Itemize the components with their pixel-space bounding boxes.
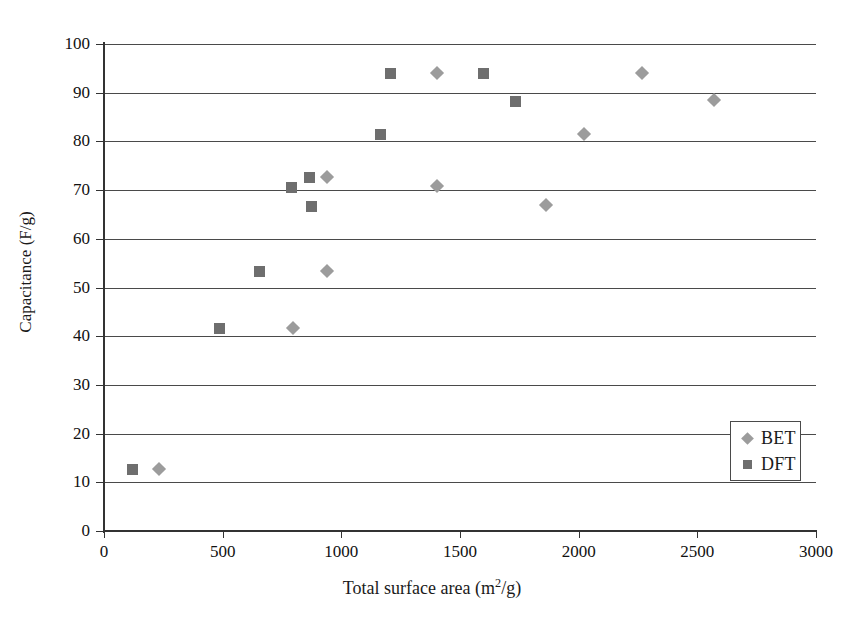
data-point-dft (286, 182, 297, 193)
x-tick-mark (341, 531, 342, 538)
x-tick-label: 0 (69, 543, 139, 560)
data-point-bet (539, 198, 553, 212)
data-point-bet (286, 321, 300, 335)
scatter-chart: 0102030405060708090100 05001000150020002… (0, 0, 864, 624)
x-tick-mark (579, 531, 580, 538)
x-tick-label: 1500 (425, 543, 495, 560)
x-axis-title-post: /g) (501, 578, 521, 598)
x-tick-mark (697, 531, 698, 538)
legend-square-icon (738, 460, 756, 469)
y-tick-label: 20 (48, 425, 90, 442)
legend-item-dft: DFT (738, 451, 800, 477)
data-point-bet (152, 462, 166, 476)
y-tick-label: 60 (48, 230, 90, 247)
data-point-dft (127, 464, 138, 475)
data-point-bet (430, 179, 444, 193)
y-tick-label: 100 (48, 35, 90, 52)
legend-label-bet: BET (761, 428, 796, 449)
data-point-bet (635, 66, 649, 80)
x-tick-label: 500 (188, 543, 258, 560)
x-tick-label: 2500 (662, 543, 732, 560)
y-tick-label: 10 (48, 473, 90, 490)
data-point-dft (385, 68, 396, 79)
data-point-bet (577, 127, 591, 141)
y-tick-label: 70 (48, 181, 90, 198)
x-tick-label: 3000 (781, 543, 851, 560)
x-tick-mark (460, 531, 461, 538)
legend-diamond-icon (738, 434, 756, 443)
legend-item-bet: BET (738, 425, 800, 451)
data-point-bet (707, 93, 721, 107)
data-point-dft (214, 323, 225, 334)
y-tick-label: 0 (48, 522, 90, 539)
y-tick-label: 50 (48, 279, 90, 296)
data-point-dft (375, 129, 386, 140)
y-axis-title: Capacitance (F/g) (16, 162, 36, 382)
data-point-bet (320, 264, 334, 278)
data-point-dft (304, 172, 315, 183)
data-point-dft (254, 266, 265, 277)
data-point-bet (430, 66, 444, 80)
y-tick-label: 40 (48, 327, 90, 344)
chart-legend: BET DFT (730, 421, 801, 481)
x-axis-title-pre: Total surface area (m (343, 578, 495, 598)
y-tick-label: 90 (48, 84, 90, 101)
data-point-dft (478, 68, 489, 79)
x-tick-label: 1000 (306, 543, 376, 560)
x-tick-mark (223, 531, 224, 538)
y-tick-label: 80 (48, 132, 90, 149)
data-point-bet (320, 170, 334, 184)
x-tick-label: 2000 (544, 543, 614, 560)
x-tick-mark (816, 531, 817, 538)
x-axis-title: Total surface area (m2/g) (0, 576, 864, 599)
data-point-dft (306, 201, 317, 212)
plot-area (104, 44, 816, 531)
y-tick-label: 30 (48, 376, 90, 393)
data-point-dft (510, 96, 521, 107)
legend-label-dft: DFT (761, 454, 796, 475)
